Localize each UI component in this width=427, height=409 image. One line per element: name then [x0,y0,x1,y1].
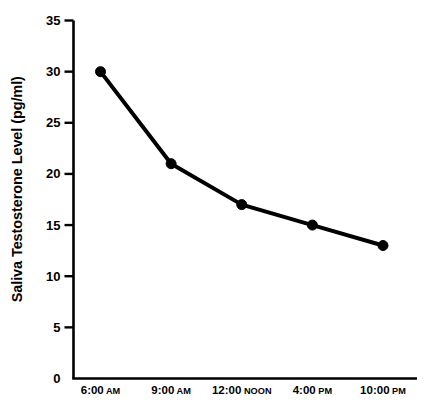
axis-tick-marks [65,21,74,328]
data-point-marker [166,159,176,169]
series-line [101,72,384,246]
line-chart: Saliva Testosterone Level (pg/ml) 051015… [0,0,427,409]
data-point-marker [237,200,247,210]
data-point-marker [307,220,317,230]
data-point-marker [378,241,388,251]
plot-area [0,0,427,409]
data-series [96,67,389,251]
axis-lines [72,21,417,379]
data-point-marker [96,67,106,77]
